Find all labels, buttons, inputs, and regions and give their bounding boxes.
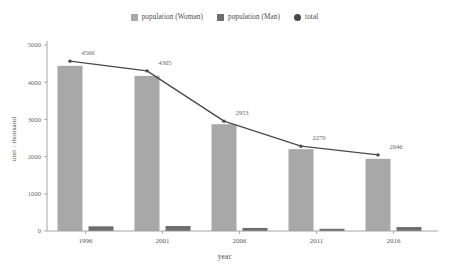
total-point-label: 2279 bbox=[312, 134, 326, 141]
total-data-point bbox=[376, 153, 379, 156]
bar-population-man bbox=[397, 227, 422, 231]
bar-population-man bbox=[166, 226, 191, 231]
bar-population-woman bbox=[135, 76, 160, 231]
y-tick-label: 3000 bbox=[28, 116, 42, 123]
bar-population-woman bbox=[58, 66, 83, 231]
x-tick-label: 2011 bbox=[310, 237, 324, 245]
bar-population-woman bbox=[289, 149, 314, 231]
total-point-label: 4566 bbox=[81, 49, 95, 56]
y-tick-label: 1000 bbox=[28, 190, 42, 197]
line-point-labels: 45664305295322792046 bbox=[81, 49, 403, 150]
total-data-point bbox=[68, 59, 71, 62]
total-data-point bbox=[145, 69, 148, 72]
y-tick-label: 5000 bbox=[28, 41, 42, 48]
x-tick-label: 2006 bbox=[233, 237, 248, 245]
y-tick-label: 0 bbox=[38, 227, 42, 234]
y-tick-label: 4000 bbox=[28, 79, 42, 86]
chart-figure: population (Woman) population (Man) tota… bbox=[0, 0, 449, 272]
total-point-label: 4305 bbox=[158, 59, 172, 66]
bar-population-woman bbox=[366, 159, 391, 231]
x-tick-label: 2001 bbox=[156, 237, 171, 245]
bar-population-man bbox=[243, 228, 268, 231]
bar-population-woman bbox=[212, 124, 237, 231]
plot-area: 010002000300040005000 199620012006201120… bbox=[0, 0, 449, 272]
total-data-point bbox=[222, 119, 225, 122]
y-tick-label: 2000 bbox=[28, 153, 42, 160]
bar-population-man bbox=[89, 226, 114, 231]
y-axis-ticks: 010002000300040005000 bbox=[28, 41, 47, 234]
total-data-point bbox=[299, 145, 302, 148]
x-tick-label: 2016 bbox=[387, 237, 402, 245]
bar-series-population-woman bbox=[58, 66, 391, 231]
total-point-label: 2046 bbox=[389, 143, 403, 150]
x-axis-ticks: 19962001200620112016 bbox=[79, 231, 402, 245]
total-point-label: 2953 bbox=[235, 109, 249, 116]
x-tick-label: 1996 bbox=[79, 237, 94, 245]
